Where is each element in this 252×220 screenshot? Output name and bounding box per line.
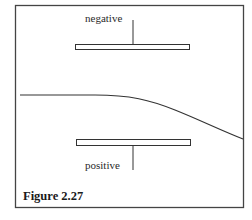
positive-plate xyxy=(77,140,191,146)
negative-plate xyxy=(76,45,190,50)
positive-label: positive xyxy=(85,159,120,171)
figure-frame xyxy=(16,6,244,208)
beam-trajectory xyxy=(20,95,243,139)
figure-caption: Figure 2.27 xyxy=(23,189,83,203)
diagram-canvas xyxy=(0,0,252,220)
figure-2-27: negative positive Figure 2.27 xyxy=(0,0,252,220)
negative-label: negative xyxy=(85,12,122,24)
